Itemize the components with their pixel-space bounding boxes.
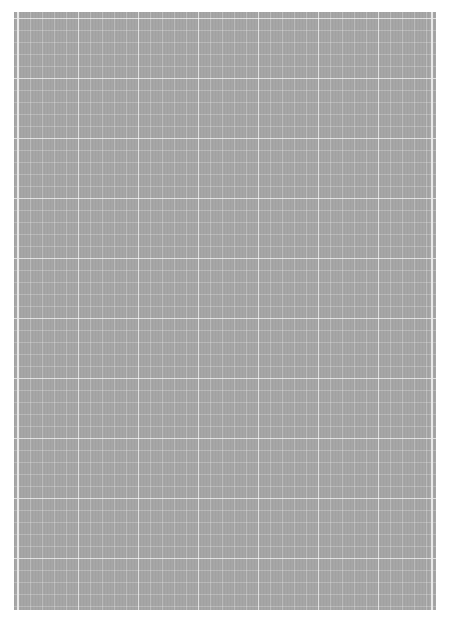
grid-paper-sheet xyxy=(14,12,436,610)
sheet-right-border xyxy=(431,12,433,610)
sheet-left-border xyxy=(17,12,19,610)
